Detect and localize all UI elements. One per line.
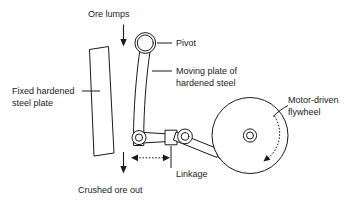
linkage-middle-pin-joint bbox=[178, 129, 193, 144]
label-pivot: Pivot bbox=[176, 38, 197, 48]
motor-driven-flywheel bbox=[212, 98, 288, 174]
label-motor-flywheel-line1: Motor-driven bbox=[288, 95, 339, 105]
label-moving-plate-line1: Moving plate of bbox=[176, 66, 238, 76]
jaw-crusher-diagram: Ore lumps Pivot Moving plate of hardened… bbox=[0, 0, 353, 206]
flywheel-hub-outer bbox=[243, 129, 256, 142]
fixed-hardened-steel-plate bbox=[90, 47, 115, 157]
label-crushed-ore-out: Crushed ore out bbox=[78, 185, 143, 195]
pivot-joint bbox=[135, 33, 156, 54]
label-fixed-plate-line1: Fixed hardened bbox=[12, 86, 75, 96]
label-fixed-plate-line2: steel plate bbox=[12, 98, 53, 108]
ore-lumps-inflow-arrow bbox=[120, 25, 126, 47]
label-motor-flywheel-line2: flywheel bbox=[288, 107, 321, 117]
crushed-ore-outflow-arrow bbox=[120, 152, 126, 174]
linkage-stroke-arrow bbox=[131, 154, 170, 161]
jaw-bottom-pin-joint bbox=[132, 131, 146, 145]
diagram-canvas: Ore lumps Pivot Moving plate of hardened… bbox=[0, 0, 353, 206]
label-moving-plate-line2: hardened steel bbox=[176, 78, 236, 88]
label-linkage: Linkage bbox=[176, 169, 208, 179]
label-ore-lumps: Ore lumps bbox=[88, 9, 130, 19]
